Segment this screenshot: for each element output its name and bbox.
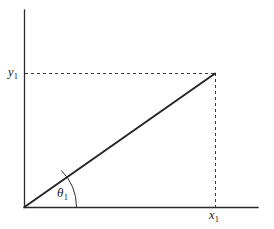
angle-label: θ1 [57, 186, 68, 199]
x-axis-label: x1 [209, 209, 219, 222]
x-axis-label-symbol: x [209, 208, 215, 222]
angle-label-symbol: θ [57, 185, 63, 200]
angle-label-subscript: 1 [64, 192, 68, 202]
x-axis-label-subscript: 1 [215, 214, 219, 224]
angle-diagram-svg [0, 0, 274, 229]
vector-line [25, 74, 216, 208]
y-axis-label: y1 [8, 66, 18, 79]
figure-container: y1 x1 θ1 [0, 0, 274, 229]
y-axis-label-subscript: 1 [14, 71, 18, 81]
y-axis-label-symbol: y [8, 65, 14, 79]
